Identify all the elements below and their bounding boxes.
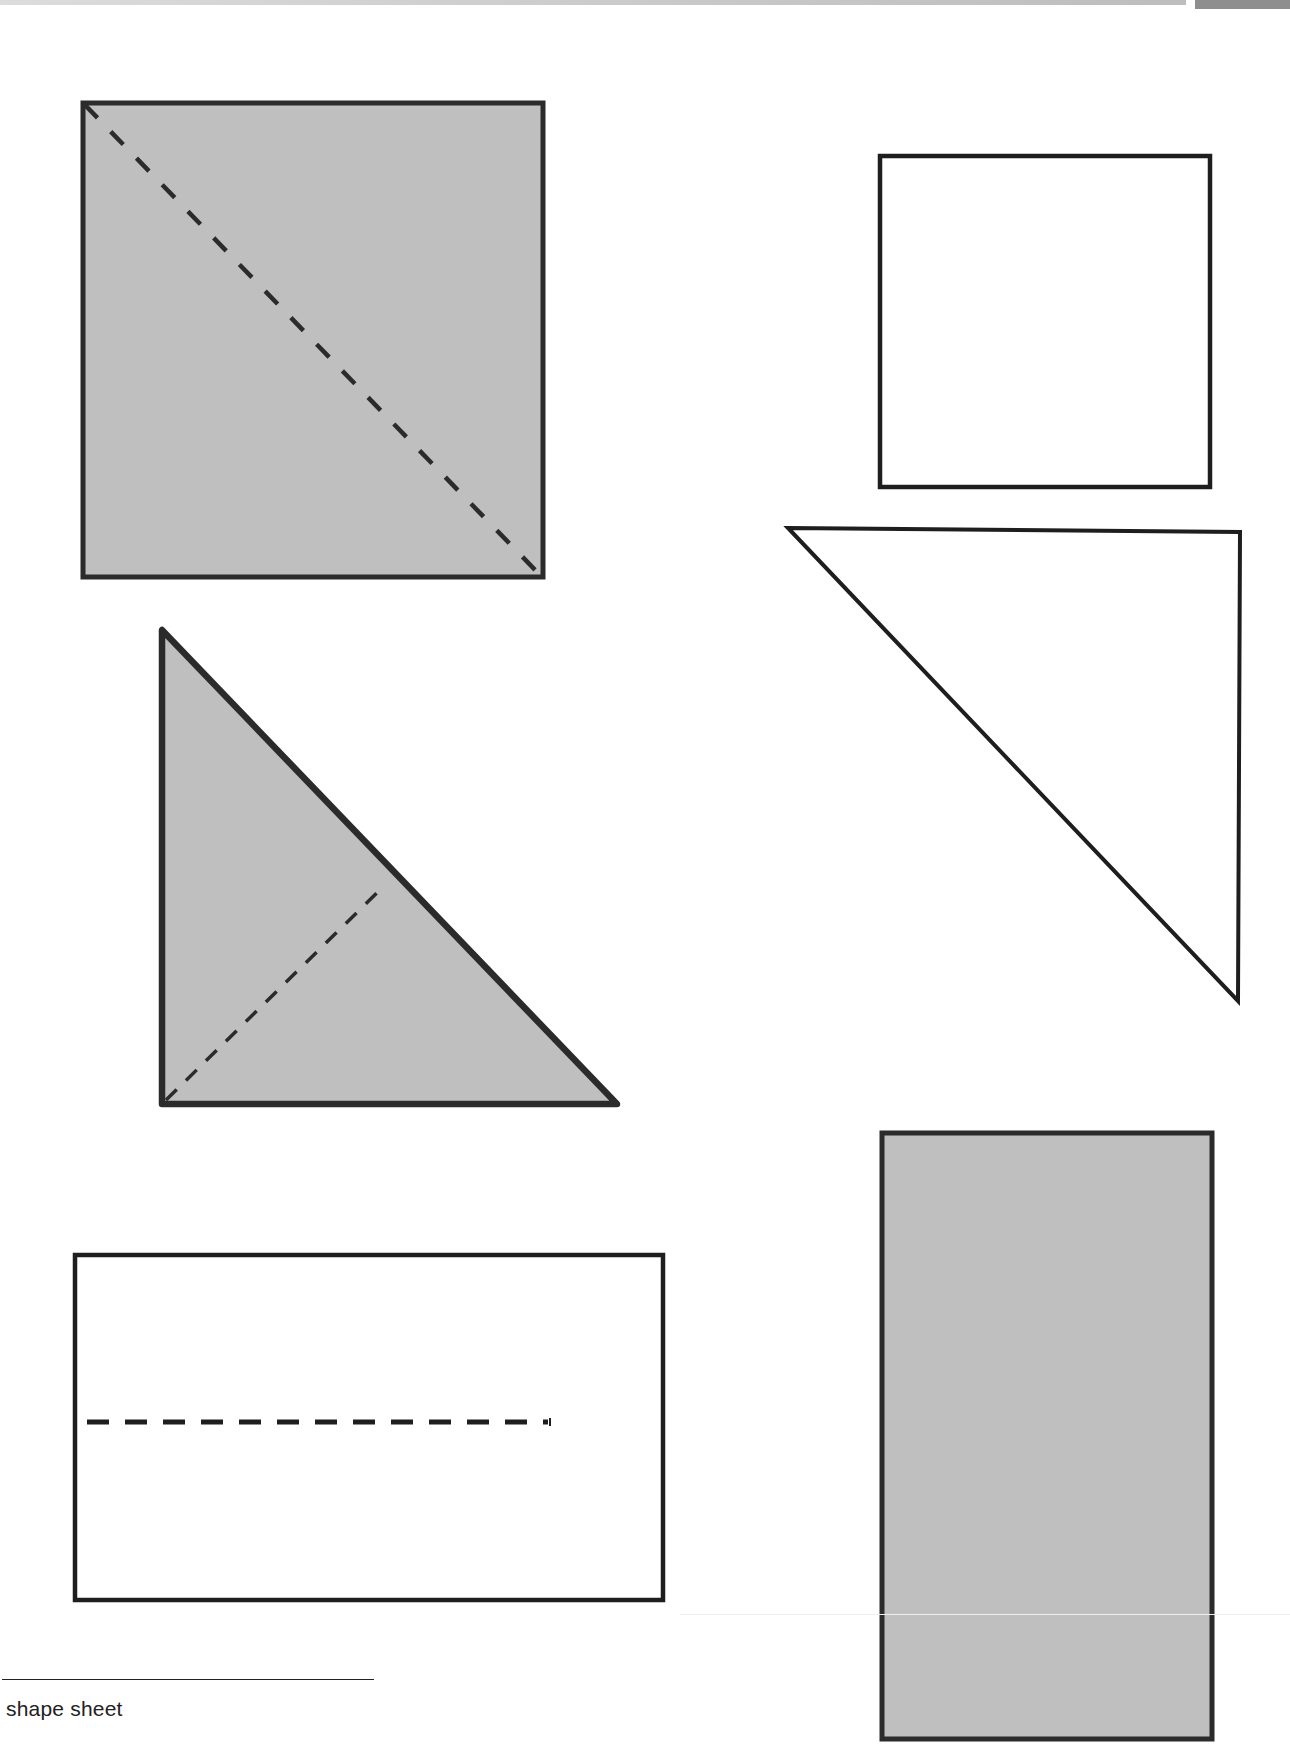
tall-rectangle [882,1133,1212,1739]
faint-page-rule [680,1614,1290,1615]
footnote-rule [2,1679,374,1680]
wide-rectangle [75,1255,663,1600]
fold-line-end-mark [549,1418,551,1426]
unshaded-right-triangle [788,528,1240,1001]
shape-sheet [0,0,1290,1745]
small-square [880,156,1210,487]
shaded-right-triangle [162,630,617,1104]
large-square [83,103,543,577]
footnote-text: shape sheet [6,1697,123,1721]
